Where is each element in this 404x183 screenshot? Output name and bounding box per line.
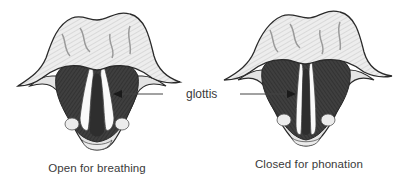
- glottis-closed: [302, 69, 310, 135]
- caption-open: Open for breathing: [48, 162, 146, 174]
- glottis-label: glottis: [186, 87, 217, 101]
- larynx-diagram: glottis Open for breathing Closed for ph…: [0, 0, 404, 183]
- larynx-closed: [224, 11, 392, 146]
- caption-closed: Closed for phonation: [255, 158, 363, 170]
- larynx-open: [18, 13, 180, 150]
